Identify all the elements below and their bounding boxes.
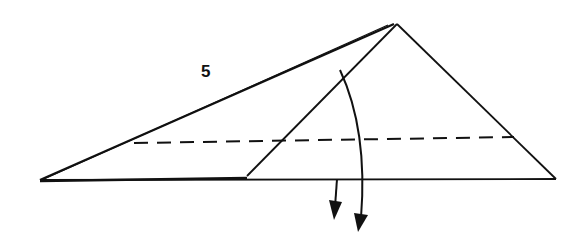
valley-fold-dashed-line <box>134 137 514 143</box>
inner-flap-edge <box>247 24 397 176</box>
fold-down-arrow-curved <box>340 70 368 232</box>
outer-triangle <box>40 24 556 181</box>
origami-diagram <box>0 0 586 247</box>
fold-down-arrow-short <box>329 179 342 220</box>
